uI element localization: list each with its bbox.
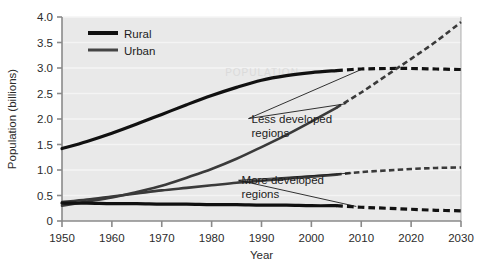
annotation-label-line2: regions (252, 127, 290, 139)
y-tick-label: 0 (47, 215, 53, 227)
x-tick-label: 2030 (448, 232, 474, 244)
legend-label-urban: Urban (124, 45, 155, 57)
y-tick-label: 1.0 (37, 164, 53, 176)
population-line-chart: POPULATION00.51.01.52.02.53.03.54.019501… (0, 0, 477, 268)
y-tick-label: 3.5 (37, 37, 53, 49)
x-tick-label: 1960 (99, 232, 125, 244)
y-tick-label: 2.5 (37, 88, 53, 100)
annotation-label-line2: regions (242, 188, 280, 200)
chart-canvas: POPULATION00.51.01.52.02.53.03.54.019501… (0, 0, 477, 268)
y-tick-label: 4.0 (37, 11, 53, 23)
x-tick-label: 1970 (149, 232, 175, 244)
x-tick-label: 1950 (49, 232, 75, 244)
x-tick-label: 2010 (348, 232, 374, 244)
annotation-label-line1: Less developed (252, 113, 333, 125)
y-axis-title: Population (billions) (6, 69, 18, 170)
legend-label-rural: Rural (124, 28, 151, 40)
y-tick-label: 3.0 (37, 62, 53, 74)
y-tick-label: 2.0 (37, 113, 53, 125)
x-axis-title: Year (250, 249, 273, 261)
x-tick-label: 2020 (398, 232, 424, 244)
y-tick-label: 0.5 (37, 190, 53, 202)
x-tick-label: 2000 (299, 232, 325, 244)
annotation-label-line1: More developed (242, 174, 324, 186)
y-axis-ticks: 00.51.01.52.02.53.03.54.0 (37, 11, 62, 227)
x-tick-label: 1980 (199, 232, 225, 244)
x-tick-label: 1990 (249, 232, 275, 244)
x-axis-ticks: 195019601970198019902000201020202030 (49, 221, 474, 244)
y-tick-label: 1.5 (37, 139, 53, 151)
